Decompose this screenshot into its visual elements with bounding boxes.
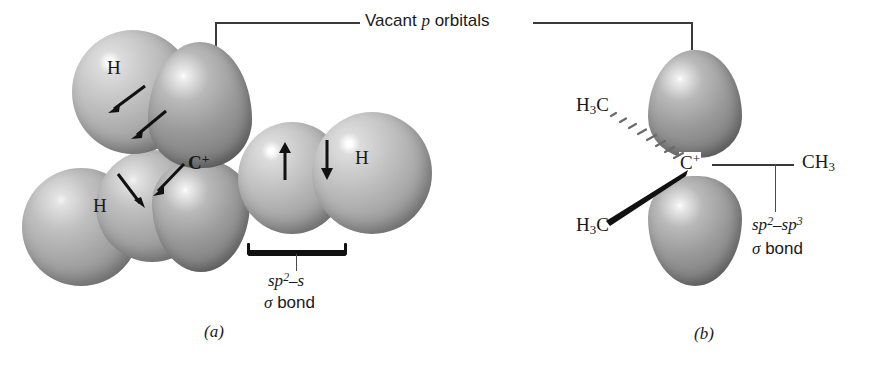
- sp2-sp3-label-sp: sp: [752, 215, 767, 234]
- sp2-s-label-sp: sp: [268, 271, 283, 290]
- methyl-label-back: H3C: [576, 95, 609, 117]
- leader-arrow-sigma-up: [276, 140, 294, 182]
- methyl-front-solid-wedge: [604, 168, 690, 230]
- carbon-charge-b: +: [693, 151, 701, 166]
- sp2-s-brace-bar: [248, 250, 346, 256]
- vacant-label-p: p: [421, 11, 430, 30]
- sigma-symbol-b: σ: [752, 239, 760, 258]
- methyl-front-c: C: [596, 214, 609, 235]
- leader-arrow-lower-left-2: [148, 160, 192, 200]
- sp2-sp3-label-stem: [775, 164, 776, 212]
- panel-b-caption: (b): [694, 324, 714, 344]
- sigma-symbol-a: σ: [264, 293, 272, 312]
- panel-a-caption: (a): [204, 322, 224, 342]
- sp2-s-bond-label-line1: sp2–s: [268, 272, 304, 289]
- sp2-sp3-bond-label-line2: σ bond: [752, 240, 803, 257]
- methyl-front-h: H: [576, 214, 590, 235]
- methyl-back-hashed-wedge: [608, 112, 690, 168]
- leader-arrow-upper-left-2: [126, 105, 170, 141]
- top-bracket-right-rule: [533, 22, 692, 24]
- methyl-right-c: CH: [802, 151, 828, 172]
- top-bracket-left-drop: [215, 22, 217, 48]
- bond-word-a: bond: [277, 293, 315, 312]
- hydrogen-label-upper-left: H: [107, 58, 121, 77]
- vacant-label-orbitals: orbitals: [435, 11, 490, 30]
- methyl-back-h: H: [576, 94, 590, 115]
- hydrogen-label-lower-left: H: [93, 196, 107, 215]
- sp2-s-brace-stem: [296, 254, 297, 271]
- carbon-charge-a: +: [202, 151, 210, 166]
- vacant-label-word: Vacant: [365, 11, 417, 30]
- sp2-s-label-tail: –s: [289, 271, 304, 290]
- sp2-sp3-label-exp2: 3: [797, 214, 803, 228]
- sp2-sp3-bond-label-line1: sp2–sp3: [752, 216, 803, 233]
- top-bracket-right-drop: [691, 22, 693, 50]
- figure-carbocation-orbitals: Vacant p orbitals H H H C+: [0, 0, 872, 374]
- sp2-sp3-label-mid: –sp: [773, 215, 797, 234]
- methyl-back-c: C: [596, 94, 609, 115]
- sp2-s-brace-tip-right: [344, 243, 347, 255]
- vacant-p-orbitals-label: Vacant p orbitals: [365, 12, 489, 29]
- methyl-right-bond-line: [712, 164, 794, 166]
- leader-arrow-sigma-down: [318, 138, 336, 182]
- top-bracket-left-rule: [215, 22, 360, 24]
- methyl-label-right: CH3: [802, 152, 835, 174]
- methyl-label-front: H3C: [576, 215, 609, 237]
- sp2-s-brace-tip-left: [247, 243, 250, 255]
- sp2-s-bond-label-line2: σ bond: [264, 294, 315, 311]
- bond-word-b: bond: [765, 239, 803, 258]
- hydrogen-label-right: H: [355, 148, 369, 167]
- methyl-right-sub: 3: [828, 159, 834, 174]
